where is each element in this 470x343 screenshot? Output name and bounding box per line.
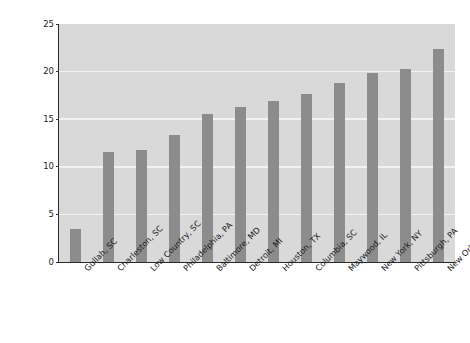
bar-chart-figure: European ancestry (%) 0510152025 Gullah,…: [0, 0, 470, 343]
y-axis-title: European ancestry (%): [10, 0, 24, 52]
x-tick-label: New Orleans, LA: [445, 266, 452, 273]
x-tick-label: Charleston, SC: [115, 266, 122, 273]
x-tick-label: Houston, TX: [280, 266, 287, 273]
x-tick-label: Maywood, IL: [346, 266, 353, 273]
x-tick-label: Columbia, SC: [313, 266, 320, 273]
x-axis-tick-group: Gullah, SCCharleston, SCLow Country, SCP…: [58, 262, 454, 343]
y-tick-label-25: 25: [30, 20, 54, 29]
x-tick-label: Pittsburgh, PA: [412, 266, 419, 273]
gridline-y-20: [59, 71, 455, 73]
gridline-y-10: [59, 166, 455, 168]
gridline-y-15: [59, 118, 455, 120]
y-tick-label-20: 20: [30, 67, 54, 76]
x-tick-label: Detroit, MI: [247, 266, 254, 273]
bar: [400, 69, 412, 262]
y-tick-label-5: 5: [30, 210, 54, 219]
bar: [70, 229, 82, 262]
x-tick-label: Low Country, SC: [148, 266, 155, 273]
x-tick-label: Gullah, SC: [82, 266, 89, 273]
x-tick-label: New York, NY: [379, 266, 386, 273]
x-tick-label: Baltimore, MD: [214, 266, 221, 273]
y-tick-label-0: 0: [30, 258, 54, 267]
y-tick-label-15: 15: [30, 115, 54, 124]
x-tick-label: Philadelphia, PA: [181, 266, 188, 273]
y-tick-label-10: 10: [30, 162, 54, 171]
gridline-y-5: [59, 214, 455, 216]
y-axis-tick-group: 0510152025: [30, 24, 54, 262]
bar: [433, 49, 445, 262]
